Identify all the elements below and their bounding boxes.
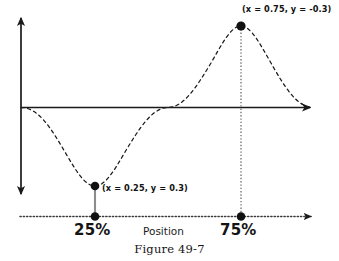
figure-caption: Figure 49-7 [0, 244, 339, 256]
tick-dot-25 [91, 212, 100, 221]
wave-plot-svg [0, 0, 339, 261]
peak-point-label: (x = 0.75, y = -0.3) [242, 5, 331, 13]
tick-dot-75 [237, 212, 246, 221]
x-tick-label-25: 25% [74, 223, 111, 238]
standing-wave-curve [21, 26, 313, 186]
x-tick-label-75: 75% [220, 223, 257, 238]
trough-marker-dot [91, 182, 100, 191]
figure-standing-wave: (x = 0.75, y = -0.3) (x = 0.25, y = 0.3)… [0, 0, 339, 261]
trough-point-label: (x = 0.25, y = 0.3) [102, 184, 188, 192]
position-axis-title: Position [143, 226, 184, 237]
peak-marker-dot [236, 21, 245, 30]
